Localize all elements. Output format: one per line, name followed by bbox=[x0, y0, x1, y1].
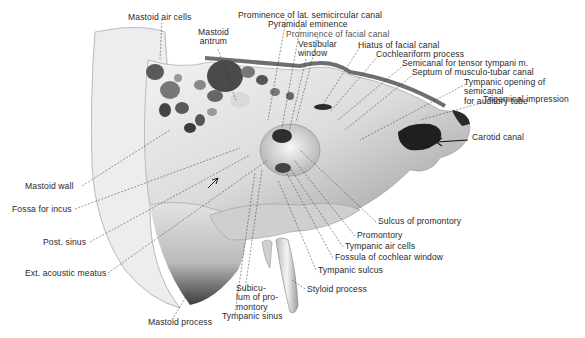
label-ext-acoustic-meatus: Ext. acoustic meatus bbox=[25, 269, 106, 278]
label-carotid-canal: Carotid canal bbox=[472, 133, 524, 142]
label-mastoid-process: Mastoid process bbox=[148, 318, 212, 327]
label-tympanic-air-cells: Tympanic air cells bbox=[345, 242, 415, 251]
label-fossula-cochlear-window: Fossula of cochlear window bbox=[335, 253, 443, 262]
label-tympanic-sinus: Tympanic sinus bbox=[222, 312, 283, 321]
label-pyramidal-eminence: Pyramidal eminence bbox=[268, 20, 348, 29]
label-subiculum-promontory: Subicu- lum of pro- montory bbox=[236, 284, 278, 312]
anatomical-figure: Mastoid air cells Prominence of lat. sem… bbox=[0, 0, 585, 338]
label-promontory: Promontory bbox=[357, 231, 402, 240]
label-trigeminal-impression: Trigeminal impression bbox=[483, 95, 569, 104]
label-styloid-process: Styloid process bbox=[307, 285, 367, 294]
label-mastoid-wall: Mastoid wall bbox=[25, 182, 73, 191]
label-post-sinus: Post. sinus bbox=[43, 238, 86, 247]
label-mastoid-antrum: Mastoid antrum bbox=[198, 28, 229, 47]
label-sulcus-of-promontory: Sulcus of promontory bbox=[378, 217, 461, 226]
label-mastoid-air-cells: Mastoid air cells bbox=[128, 13, 191, 22]
label-vestibular-window: Vestibular window bbox=[298, 40, 337, 59]
label-septum-musculo-tubar: Septum of musculo-tubar canal bbox=[412, 68, 534, 77]
label-prominence-facial-canal: Prominence of facial canal bbox=[286, 30, 389, 39]
label-fossa-for-incus: Fossa for incus bbox=[12, 205, 72, 214]
label-tympanic-sulcus: Tympanic sulcus bbox=[318, 266, 383, 275]
temporal-bone-illustration bbox=[0, 0, 585, 338]
